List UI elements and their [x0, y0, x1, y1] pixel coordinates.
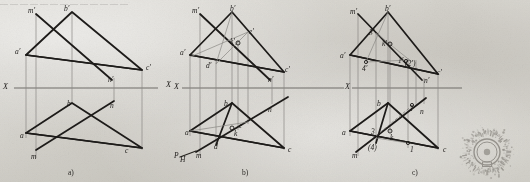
point-label-diagram-b-10: e	[239, 122, 242, 130]
point-label-diagram-a-6: n	[110, 102, 114, 110]
point-label-diagram-b-15: c	[288, 146, 291, 154]
point-label-diagram-b-13: d	[214, 143, 218, 151]
caption-b: b)	[242, 168, 248, 177]
point-label-diagram-b-9: n	[268, 106, 272, 114]
ink-stamp	[460, 125, 515, 179]
diagram-b	[180, 12, 344, 157]
point-label-diagram-b-11: a	[185, 129, 189, 137]
point-label-diagram-b-5: d′	[206, 62, 211, 70]
aux-line-front-c-b-4	[366, 12, 388, 62]
point-label-diagram-a-7: a	[20, 132, 24, 140]
point-label-diagram-c-18: m	[352, 152, 357, 160]
point-label-diagram-c-3: k′	[382, 40, 387, 48]
segment-mn-front-b	[200, 14, 270, 80]
axis-x-left-a: X	[3, 83, 8, 91]
point-label-diagram-b-6: n′	[268, 76, 273, 84]
point-label-diagram-c-7: 4′	[362, 65, 367, 73]
point-label-diagram-a-4: n′	[108, 76, 113, 84]
point-label-diagram-c-1: b′	[385, 5, 390, 13]
point-label-diagram-c-19: c	[443, 146, 446, 154]
point-label-diagram-c-11: 2	[409, 105, 413, 113]
diagram-a	[14, 12, 158, 158]
point-label-diagram-c-8: n′	[424, 77, 429, 85]
point-label-diagram-b-16: P	[174, 152, 179, 160]
point-label-diagram-b-14: m	[196, 152, 201, 160]
point-label-diagram-b-3: k′	[230, 38, 235, 46]
diagram-c	[350, 12, 462, 156]
point-label-diagram-c-10: b	[377, 100, 381, 108]
point-label-diagram-a-0: m′	[28, 7, 35, 15]
point-label-diagram-c-17: 1	[410, 146, 414, 154]
point-label-diagram-a-9: c	[125, 147, 128, 155]
point-label-diagram-b-7: c′	[285, 66, 290, 74]
triangle-top-c	[350, 103, 438, 148]
point-label-diagram-c-14: 3	[371, 128, 375, 136]
point-label-diagram-b-12: k	[234, 130, 237, 138]
caption-c: c)	[412, 168, 418, 177]
point-label-diagram-a-8: m	[31, 153, 36, 161]
segment-ac-front-b	[190, 55, 284, 72]
axis-x-left-b: X	[174, 83, 179, 91]
point-label-diagram-c-16: (4)	[368, 144, 377, 152]
caption-a: a)	[68, 168, 74, 177]
point-label-diagram-c-4: a′	[340, 52, 345, 60]
point-label-diagram-c-5: 1′	[398, 57, 403, 65]
point-label-diagram-b-0: m′	[192, 7, 199, 15]
point-label-diagram-a-3: c′	[146, 64, 151, 72]
projection-figure: .thick{stroke:#1d1b19;stroke-width:1.75;…	[0, 0, 530, 182]
point-label-diagram-c-6: (2′)	[405, 60, 415, 68]
segment-ac-front-a	[26, 55, 142, 70]
point-label-diagram-c-13: a	[342, 129, 346, 137]
point-label-diagram-c-9: c′	[437, 69, 442, 77]
point-label-diagram-a-5: b	[67, 100, 71, 108]
point-label-diagram-b-2: e′	[249, 28, 254, 36]
axis-x-left-c: X	[345, 83, 350, 91]
point-label-diagram-a-1: b′	[64, 5, 69, 13]
point-label-diagram-c-2: 3′	[369, 29, 374, 37]
point-label-diagram-c-15: k	[390, 134, 393, 142]
point-label-diagram-a-2: a′	[15, 48, 20, 56]
point-label-diagram-c-12: n	[420, 108, 424, 116]
segment-mn-front-a	[36, 14, 112, 80]
point-label-diagram-b-17: H	[180, 156, 185, 164]
point-label-diagram-c-0: m′	[350, 8, 357, 16]
point-label-diagram-b-1: b′	[230, 5, 235, 13]
point-label-diagram-b-4: a′	[180, 49, 185, 57]
axis-x-right-a: X	[166, 81, 171, 89]
point-label-diagram-b-8: b	[224, 100, 228, 108]
